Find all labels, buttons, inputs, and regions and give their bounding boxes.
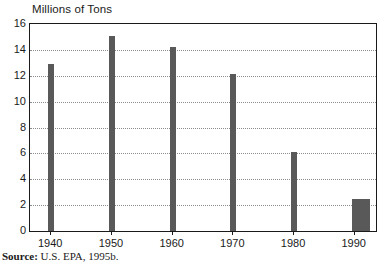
- x-tick-label: 1940: [26, 237, 74, 249]
- bar: [48, 64, 54, 231]
- x-tick-mark: [293, 232, 294, 235]
- x-tick-label: 1970: [208, 237, 256, 249]
- bar: [109, 36, 115, 231]
- gridline: [30, 76, 376, 77]
- bar: [170, 47, 176, 231]
- y-tick-label: 10: [2, 96, 26, 107]
- y-tick-label: 0: [2, 225, 26, 236]
- source-text: U.S. EPA, 1995b.: [38, 250, 119, 262]
- gridline: [30, 179, 376, 180]
- source-note: Source: U.S. EPA, 1995b.: [2, 250, 118, 263]
- source-label: Source:: [2, 250, 38, 262]
- bar: [364, 199, 370, 231]
- y-tick-label: 14: [2, 44, 26, 55]
- gridline: [30, 153, 376, 154]
- y-tick-label: 6: [2, 147, 26, 158]
- y-tick-label: 8: [2, 122, 26, 133]
- x-tick-label: 1990: [330, 237, 378, 249]
- x-tick-mark: [172, 232, 173, 235]
- bar: [291, 152, 297, 231]
- gridline: [30, 128, 376, 129]
- gridline: [30, 50, 376, 51]
- x-tick-mark: [50, 232, 51, 235]
- chart-title: Millions of Tons: [32, 2, 112, 16]
- x-tick-mark: [111, 232, 112, 235]
- x-tick-label: 1950: [87, 237, 135, 249]
- y-tick-label: 12: [2, 70, 26, 81]
- gridline: [30, 205, 376, 206]
- x-tick-mark: [354, 232, 355, 235]
- gridline: [30, 102, 376, 103]
- y-tick-label: 16: [2, 18, 26, 29]
- y-tick-label: 2: [2, 199, 26, 210]
- x-tick-mark: [232, 232, 233, 235]
- x-tick-label: 1980: [269, 237, 317, 249]
- x-tick-label: 1960: [148, 237, 196, 249]
- figure: Millions of Tons 1614121086420 194019501…: [0, 0, 384, 265]
- y-axis: 1614121086420: [0, 23, 26, 232]
- y-tick-label: 4: [2, 173, 26, 184]
- plot-area: [29, 23, 377, 232]
- bar: [230, 74, 236, 231]
